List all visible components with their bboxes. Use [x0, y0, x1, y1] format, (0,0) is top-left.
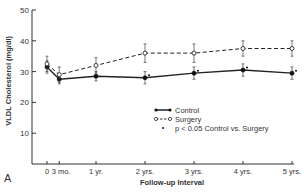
y-tick-label: 50 [20, 6, 29, 15]
data-point-control [94, 74, 98, 78]
x-tick-label: 1 yr. [89, 167, 103, 176]
significance-marker [148, 74, 150, 76]
data-point-surgery [45, 62, 49, 66]
data-point-control [143, 76, 147, 80]
x-tick-label: 5 yrs. [283, 167, 301, 176]
data-point-surgery [241, 47, 245, 51]
data-point-surgery [57, 73, 61, 77]
x-tick-label: 2 yrs. [136, 167, 154, 176]
data-point-surgery [94, 63, 98, 67]
legend-surgery: Surgery [175, 115, 202, 124]
data-point-surgery [290, 47, 294, 51]
significance-marker [197, 70, 199, 72]
significance-marker [295, 70, 297, 72]
panel-label: A [4, 172, 12, 184]
data-point-surgery [143, 51, 147, 55]
y-tick-label: 20 [20, 98, 29, 107]
y-axis-label: VLDL Cholesterol (mg/dl) [4, 35, 13, 125]
data-point-control [290, 71, 294, 75]
legend-significance: p < 0.05 Control vs. Surgery [175, 124, 269, 133]
x-tick-label: 4 yrs. [234, 167, 252, 176]
x-axis-label: Follow-up Interval [140, 178, 204, 187]
x-tick-label: 3 yrs. [185, 167, 203, 176]
data-point-control [192, 71, 196, 75]
significance-marker [246, 67, 248, 69]
vldl-cholesterol-chart: 102030405003 mo.1 yr.2 yrs.3 yrs.4 yrs.5… [0, 0, 308, 193]
x-tick-label: 0 [45, 167, 49, 176]
data-point-surgery [192, 51, 196, 55]
y-tick-label: 40 [20, 37, 29, 46]
y-tick-label: 30 [20, 68, 29, 77]
data-point-control [241, 68, 245, 72]
x-tick-label: 3 mo. [52, 167, 71, 176]
legend-control: Control [175, 106, 200, 115]
y-tick-label: 10 [20, 129, 29, 138]
